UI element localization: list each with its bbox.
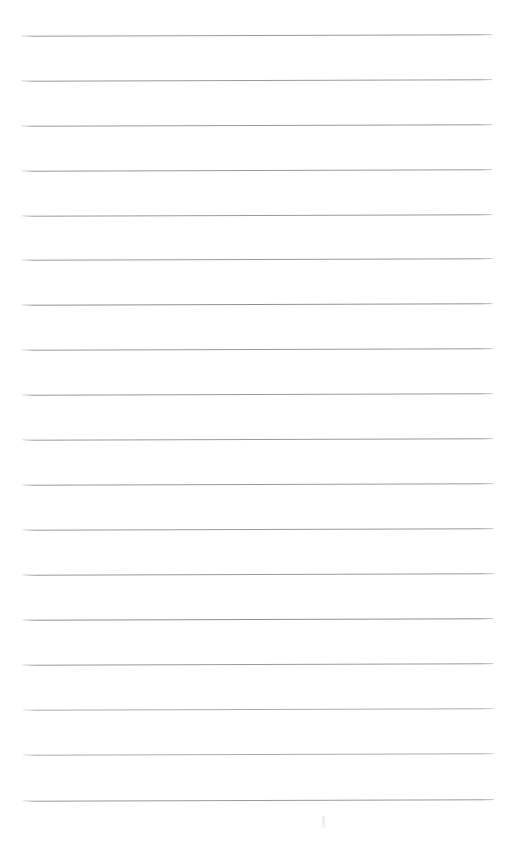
- ruled-line: [22, 483, 493, 485]
- ruled-line: [22, 438, 493, 440]
- ruled-line: [22, 348, 493, 350]
- ruled-line: [21, 124, 492, 126]
- ruled-line: [21, 34, 492, 36]
- ruled-line: [23, 618, 494, 620]
- ruled-line: [21, 169, 492, 171]
- scanned-page: [0, 0, 509, 864]
- ruled-lines-layer: [0, 0, 509, 864]
- ruled-line: [21, 79, 492, 81]
- ruled-line: [23, 708, 494, 710]
- ruled-line: [22, 528, 493, 530]
- ruled-line: [22, 573, 493, 575]
- ruled-line: [22, 258, 493, 260]
- ruled-line: [23, 663, 494, 665]
- ruled-line: [21, 214, 492, 216]
- ruled-line: [23, 753, 494, 755]
- scan-speck-tail-icon: [321, 824, 326, 828]
- ruled-line: [23, 799, 494, 801]
- ruled-line: [22, 303, 493, 305]
- ruled-line: [22, 393, 493, 395]
